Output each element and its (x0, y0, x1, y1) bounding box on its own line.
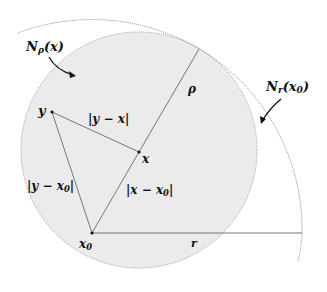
label-x: x (142, 153, 149, 165)
point-y (50, 110, 53, 113)
label-n-r: Nr(x0) (266, 80, 309, 94)
label-r: r (191, 238, 197, 249)
label-x0: x0 (79, 238, 92, 252)
label-rho: ρ (188, 83, 196, 95)
label-y: y (38, 104, 46, 117)
point-x0 (90, 231, 93, 234)
label-y-minus-x0: |y − x0| (27, 180, 74, 194)
label-x-minus-x0: |x − x0| (126, 184, 173, 198)
point-x (137, 150, 140, 153)
label-y-minus-x: |y − x| (88, 113, 129, 125)
label-n-rho: Nρ(x) (26, 40, 64, 54)
